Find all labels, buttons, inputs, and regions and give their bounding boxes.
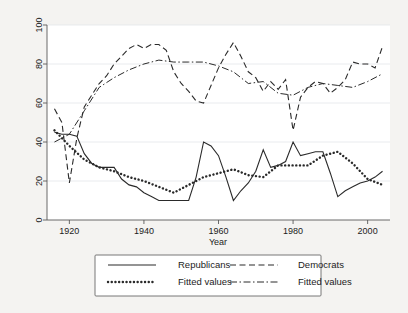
legend-label-1: Democrats [298,259,344,270]
y-tick-label-0: 0 [34,217,44,222]
plot-background [47,25,390,220]
x-axis-ticks: 19201940196019802000 [59,220,377,236]
line-chart: 020406080100 19201940196019802000 Year R… [0,0,408,313]
chart-figure: 020406080100 19201940196019802000 Year R… [0,0,408,313]
x-tick-label-1980: 1980 [283,226,303,236]
x-axis-title: Year [209,237,227,247]
y-tick-label-40: 40 [34,137,44,147]
legend-label-0: Republicans [178,259,231,270]
x-tick-label-1940: 1940 [134,226,154,236]
x-tick-label-1960: 1960 [208,226,228,236]
y-axis-ticks: 020406080100 [34,17,47,222]
legend-label-3: Fitted values [298,276,352,287]
y-tick-label-20: 20 [34,176,44,186]
x-tick-label-1920: 1920 [59,226,79,236]
y-tick-label-80: 80 [34,59,44,69]
y-tick-label-60: 60 [34,98,44,108]
y-tick-label-100: 100 [34,17,44,32]
x-tick-label-2000: 2000 [358,226,378,236]
legend-label-2: Fitted values [178,276,232,287]
